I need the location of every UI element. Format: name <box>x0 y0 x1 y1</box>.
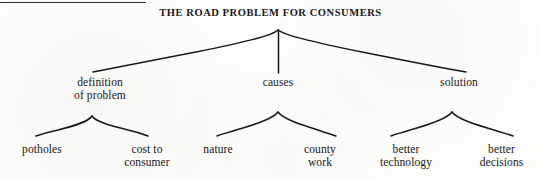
edge-root-to-definition <box>93 30 278 72</box>
edge-solution-to-decisions <box>452 112 513 136</box>
node-causes: causes <box>228 76 328 89</box>
node-potholes: potholes <box>0 143 84 156</box>
node-solution: solution <box>409 76 509 89</box>
edge-root-to-solution <box>278 30 466 72</box>
node-better-technology: better technology <box>360 143 452 169</box>
edge-causes-to-nature <box>217 112 278 136</box>
node-nature: nature <box>176 143 260 156</box>
diagram-title: THE ROAD PROBLEM FOR CONSUMERS <box>0 7 541 19</box>
edge-definition-to-potholes <box>36 116 92 136</box>
node-county-work: county work <box>278 143 362 169</box>
edge-definition-to-cost <box>92 116 148 136</box>
edge-causes-to-county <box>278 112 336 136</box>
node-definition-of-problem: definition of problem <box>50 76 150 102</box>
edge-solution-to-technology <box>391 112 452 136</box>
node-better-decisions: better decisions <box>462 143 541 169</box>
tree-diagram-figure: THE ROAD PROBLEM FOR CONSUMERS definitio… <box>0 0 541 180</box>
